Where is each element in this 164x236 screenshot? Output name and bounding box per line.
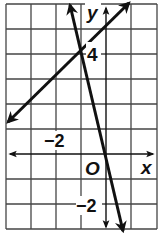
y-tick-label-4: 4 [87,44,98,65]
y-tick-label-neg-2: −2 [76,196,97,216]
origin-label: O [85,158,100,179]
y-axis-label: y [86,2,99,23]
x-axis-label: x [140,157,153,178]
coordinate-graph: y 4 −2 O x −2 [0,0,164,236]
x-tick-label-neg-2: −2 [44,131,65,151]
